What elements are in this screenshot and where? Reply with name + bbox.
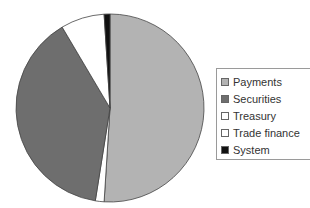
pie-slice-payments (104, 14, 204, 202)
legend-item-treasury: Treasury (221, 107, 310, 124)
legend-item-trade-finance: Trade finance (221, 124, 310, 141)
legend-item-securities: Securities (221, 90, 310, 107)
legend-swatch (221, 112, 229, 120)
legend-item-system: System (221, 141, 310, 158)
legend-swatch (221, 78, 229, 86)
legend-swatch (221, 146, 229, 154)
pie-chart (0, 0, 215, 208)
legend-item-payments: Payments (221, 73, 310, 90)
chart-legend: Payments Securities Treasury Trade finan… (216, 68, 310, 160)
legend-swatch (221, 129, 229, 137)
legend-swatch (221, 95, 229, 103)
